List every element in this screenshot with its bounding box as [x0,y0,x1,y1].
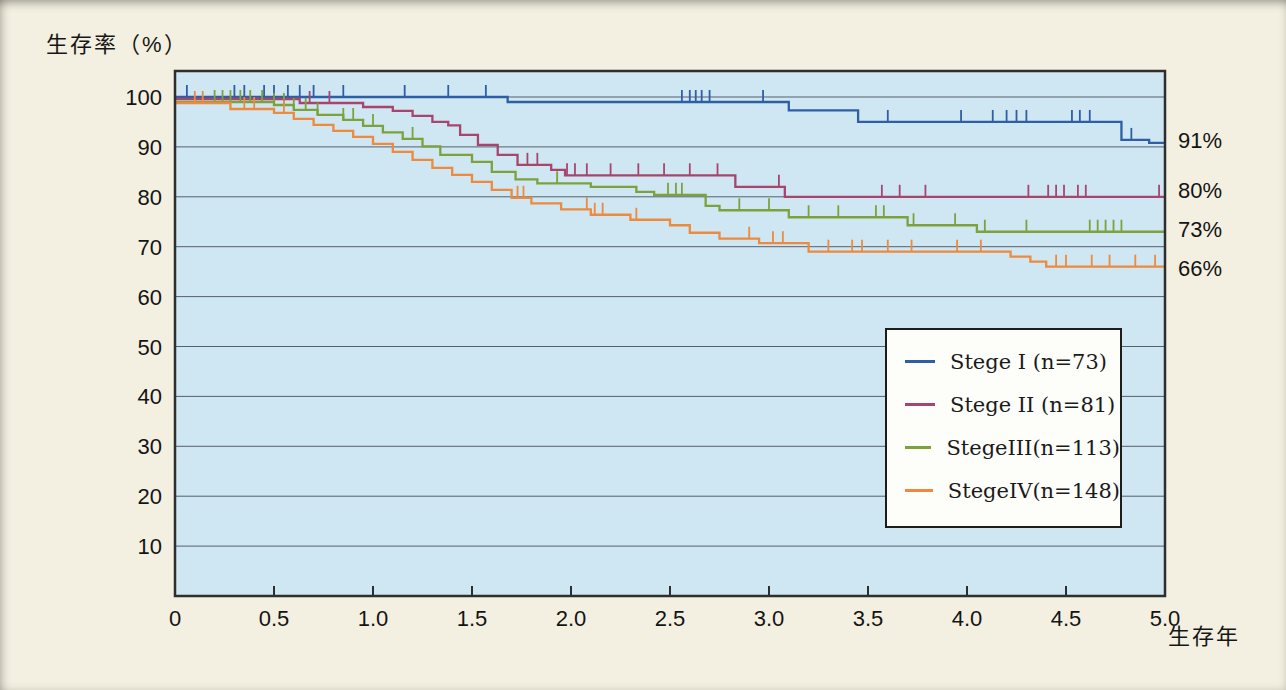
x-tick-label: 2.0 [556,606,587,631]
y-tick-label: 10 [138,534,162,559]
y-tick-label: 50 [138,335,162,360]
stage-3-line-swatch [905,446,931,449]
legend-item-stage-2: Stege II (n=81) [905,383,1120,426]
stage-2-final-percent: 80% [1178,178,1222,204]
legend-item-stage-3: StegeIII(n=113) [905,426,1120,469]
y-tick-label: 100 [125,85,162,110]
x-tick-label: 4.0 [952,606,983,631]
x-tick-label: 3.0 [754,606,785,631]
legend-item-stage-4: StegeIV(n=148) [905,469,1120,512]
x-tick-label: 2.5 [655,606,686,631]
stage-1-line-swatch [905,360,935,363]
y-tick-label: 90 [138,135,162,160]
y-tick-label: 40 [138,384,162,409]
legend-label: Stege I (n=73) [950,350,1107,374]
x-axis-title: 生存年 [1168,618,1240,650]
stage-2-line-swatch [905,403,935,406]
stage-4-final-percent: 66% [1178,256,1222,282]
x-tick-label: 0 [169,606,181,631]
figure-canvas: 生存率（%） 10090807060504030201000.51.01.52.… [0,0,1286,690]
legend-label: StegeIII(n=113) [946,436,1120,460]
y-tick-label: 20 [138,484,162,509]
stage-1-final-percent: 91% [1178,128,1222,154]
x-tick-label: 3.5 [853,606,884,631]
legend-item-stage-1: Stege I (n=73) [905,340,1120,383]
y-tick-label: 80 [138,185,162,210]
x-tick-label: 1.0 [358,606,389,631]
y-tick-label: 60 [138,285,162,310]
stage-3-final-percent: 73% [1178,217,1222,243]
stage-4-line-swatch [905,489,933,492]
x-tick-label: 1.5 [457,606,488,631]
legend-box: Stege I (n=73) Stege II (n=81) StegeIII(… [885,328,1122,528]
x-tick-label: 4.5 [1051,606,1082,631]
y-tick-label: 30 [138,434,162,459]
y-tick-label: 70 [138,235,162,260]
legend-label: Stege II (n=81) [950,393,1115,417]
x-tick-label: 0.5 [259,606,290,631]
legend-label: StegeIV(n=148) [948,479,1120,503]
